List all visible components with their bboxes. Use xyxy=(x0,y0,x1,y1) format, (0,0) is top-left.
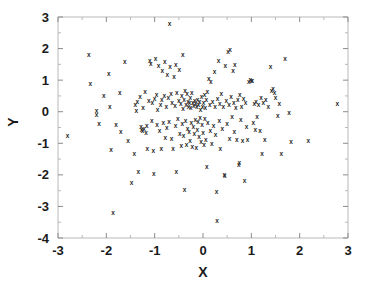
data-point-marker: x xyxy=(206,88,210,95)
data-point-marker: x xyxy=(133,150,137,157)
caption-strip xyxy=(0,275,367,287)
data-point-marker: x xyxy=(210,140,214,147)
data-point-marker: x xyxy=(264,96,268,103)
data-point-marker: x xyxy=(66,132,70,139)
data-point-marker: x xyxy=(279,150,283,157)
data-point-marker: x xyxy=(289,138,293,145)
plot-canvas: -3-2-10123 -4-3-2-10123 xxxxxxxxxxxxxxxx… xyxy=(0,0,367,287)
data-point-marker: x xyxy=(109,146,113,153)
data-point-marker: x xyxy=(95,111,99,118)
data-point-marker: x xyxy=(89,80,93,87)
data-point-marker: x xyxy=(160,145,164,152)
data-point-marker: x xyxy=(217,57,221,64)
y-tick-label: 1 xyxy=(42,73,49,88)
x-tick-label: -3 xyxy=(52,243,64,258)
data-point-marker: x xyxy=(250,77,254,84)
data-point-marker: x xyxy=(201,129,205,136)
data-point-marker: x xyxy=(228,135,232,142)
y-tick-label: 0 xyxy=(42,104,49,119)
data-point-marker: x xyxy=(221,103,225,110)
data-point-marker: x xyxy=(126,137,130,144)
data-point-marker: x xyxy=(165,71,169,78)
data-point-marker: x xyxy=(223,62,227,69)
data-point-marker: x xyxy=(235,136,239,143)
data-point-marker: x xyxy=(108,103,112,110)
data-point-marker: x xyxy=(307,137,311,144)
data-point-marker: x xyxy=(161,67,165,74)
data-point-marker: x xyxy=(170,135,174,142)
data-point-marker: x xyxy=(206,119,210,126)
data-point-marker: x xyxy=(169,90,173,97)
data-point-marker: x xyxy=(143,88,147,95)
y-tick-label: 3 xyxy=(42,10,49,25)
data-point-marker: x xyxy=(172,73,176,80)
data-point-marker: x xyxy=(158,127,162,134)
data-point-marker: x xyxy=(164,103,168,110)
x-tick-label: -1 xyxy=(149,243,161,258)
data-point-marker: x xyxy=(255,113,259,120)
data-point-marker: x xyxy=(102,92,106,99)
data-point-marker: x xyxy=(260,150,264,157)
data-point-marker: x xyxy=(194,144,198,151)
data-point-marker: x xyxy=(215,188,219,195)
data-point-marker: x xyxy=(215,217,219,224)
data-point-marker: x xyxy=(209,78,213,85)
data-point-marker: x xyxy=(214,131,218,138)
data-point-marker: x xyxy=(200,121,204,128)
data-point-marker: x xyxy=(212,122,216,129)
x-tick-label: 0 xyxy=(199,243,206,258)
data-point-marker: x xyxy=(276,112,280,119)
data-point-marker: x xyxy=(175,168,179,175)
data-point-marker: x xyxy=(118,89,122,96)
data-point-marker: x xyxy=(278,100,282,107)
data-point-marker: x xyxy=(336,100,340,107)
data-point-marker: x xyxy=(213,103,217,110)
x-tick-label: 3 xyxy=(344,243,351,258)
data-point-marker: x xyxy=(233,61,237,68)
data-point-marker: x xyxy=(244,99,248,106)
data-point-marker: x xyxy=(198,114,202,121)
y-tick-label: -2 xyxy=(37,167,49,182)
data-point-marker: x xyxy=(228,46,232,53)
scatter-plot-figure: -3-2-10123 -4-3-2-10123 xxxxxxxxxxxxxxxx… xyxy=(0,0,367,287)
data-point-marker: x xyxy=(134,107,138,114)
data-point-marker: x xyxy=(204,136,208,143)
data-point-marker: x xyxy=(246,136,250,143)
data-point-marker: x xyxy=(168,20,172,27)
data-point-marker: x xyxy=(165,124,169,131)
data-point-marker: x xyxy=(141,104,145,111)
data-point-marker: x xyxy=(237,159,241,166)
data-point-marker: x xyxy=(257,101,261,108)
data-point-marker: x xyxy=(245,123,249,130)
data-point-marker: x xyxy=(152,170,156,177)
data-point-marker: x xyxy=(213,68,217,75)
data-point-marker: x xyxy=(181,51,185,58)
data-point-marker: x xyxy=(178,66,182,73)
data-point-marker: x xyxy=(163,58,167,65)
data-point-marker: x xyxy=(150,117,154,124)
data-point-marker: x xyxy=(114,121,118,128)
data-point-marker: x xyxy=(155,91,159,98)
data-point-marker: x xyxy=(233,128,237,135)
data-point-marker: x xyxy=(184,117,188,124)
data-point-marker: x xyxy=(174,122,178,129)
data-point-marker: x xyxy=(179,142,183,149)
data-point-marker: x xyxy=(107,70,111,77)
data-point-marker: x xyxy=(130,179,134,186)
data-point-marker: x xyxy=(146,145,150,152)
data-point-marker: x xyxy=(253,126,257,133)
x-tick-label: 1 xyxy=(248,243,255,258)
data-point-marker: x xyxy=(220,90,224,97)
data-point-marker: x xyxy=(219,145,223,152)
data-point-marker: x xyxy=(171,145,175,152)
data-point-marker: x xyxy=(97,120,101,127)
x-tick-label: 2 xyxy=(296,243,303,258)
y-tick-label: -3 xyxy=(37,199,49,214)
data-point-marker: x xyxy=(258,127,262,134)
data-point-marker: x xyxy=(218,117,222,124)
x-axis-tick-labels: -3-2-10123 xyxy=(52,243,351,258)
data-point-marker: x xyxy=(269,63,273,70)
data-point-marker: x xyxy=(136,168,140,175)
y-axis-tick-labels: -4-3-2-10123 xyxy=(37,10,49,246)
data-point-marker: x xyxy=(123,58,127,65)
